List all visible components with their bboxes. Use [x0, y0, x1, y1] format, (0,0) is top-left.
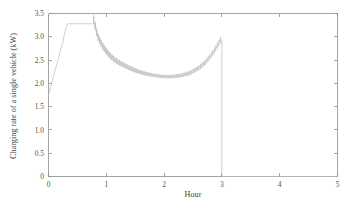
- y-tick-label: 2.5: [35, 56, 45, 65]
- y-tick-label: 2.0: [35, 79, 45, 88]
- x-tick-label: 0: [47, 180, 51, 189]
- line-chart: 00.51.01.52.02.53.03.5 012345 Hour Charg…: [0, 0, 356, 204]
- y-tick-label: 3.5: [35, 9, 45, 18]
- x-axis-ticks: [49, 14, 338, 177]
- charging-rate-line: [49, 15, 338, 176]
- x-tick-label: 4: [278, 180, 282, 189]
- y-tick-label: 3.0: [35, 32, 45, 41]
- plot-frame: [49, 14, 338, 177]
- x-tick-label: 2: [162, 180, 166, 189]
- data-series-group: [49, 15, 338, 176]
- y-axis-title: Charging rate of a single vehicle (kW): [9, 33, 18, 159]
- y-tick-label: 1.5: [35, 102, 45, 111]
- y-axis-tick-labels: 00.51.01.52.02.53.03.5: [35, 9, 45, 181]
- x-axis-title: Hour: [185, 190, 202, 199]
- x-tick-label: 1: [104, 180, 108, 189]
- x-tick-label: 5: [336, 180, 340, 189]
- y-tick-label: 0: [40, 172, 44, 181]
- chart-figure: 00.51.01.52.02.53.03.5 012345 Hour Charg…: [0, 0, 356, 204]
- y-tick-label: 0.5: [35, 149, 45, 158]
- x-tick-label: 3: [220, 180, 224, 189]
- axis-frame: [49, 14, 338, 177]
- y-tick-label: 1.0: [35, 126, 45, 135]
- x-axis-tick-labels: 012345: [47, 180, 340, 189]
- y-axis-ticks: [49, 14, 338, 177]
